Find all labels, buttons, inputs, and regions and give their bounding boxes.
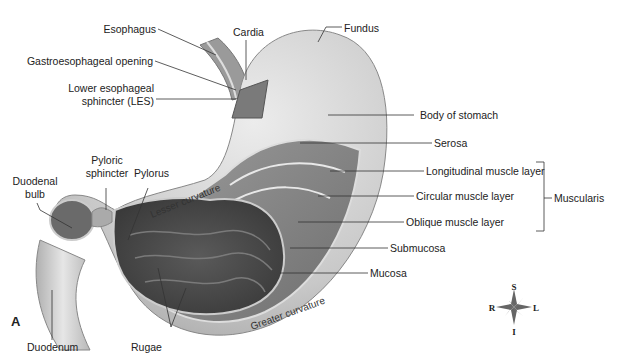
compass-r: R [486,302,498,314]
label-gastroesophageal-opening: Gastroesophageal opening [0,55,153,67]
figure-letter: A [11,314,20,329]
label-body-of-stomach: Body of stomach [420,109,498,121]
label-submucosa: Submucosa [390,242,445,254]
label-cardia: Cardia [233,26,264,38]
label-esophagus: Esophagus [60,23,156,35]
duodenum-shape [36,240,90,350]
label-duodenum: Duodenum [27,341,78,353]
label-les-line1: Lower esophageal [40,82,154,94]
compass-icon [496,289,532,325]
label-pylorus: Pylorus [134,167,169,179]
label-pyloric-line2: sphincter [80,167,134,179]
label-oblique-muscle-layer: Oblique muscle layer [406,216,504,228]
label-fundus: Fundus [344,22,379,34]
label-circular-muscle-layer: Circular muscle layer [416,190,514,202]
compass-l: L [530,302,542,314]
label-mucosa: Mucosa [370,267,407,279]
label-muscularis: Muscularis [554,192,604,204]
compass-i: I [508,326,520,338]
label-serosa: Serosa [434,137,467,149]
label-longitudinal-muscle-layer: Longitudinal muscle layer [426,165,544,177]
stomach-diagram: Lesser curvature Greater curvature Esoph… [0,0,628,363]
label-rugae: Rugae [131,341,162,353]
label-pyloric-line1: Pyloric [80,154,134,166]
label-les-line2: sphincter (LES) [40,95,154,107]
label-duodenal-line2: bulb [10,188,60,200]
label-duodenal-line1: Duodenal [10,175,60,187]
compass-s: S [508,281,520,293]
